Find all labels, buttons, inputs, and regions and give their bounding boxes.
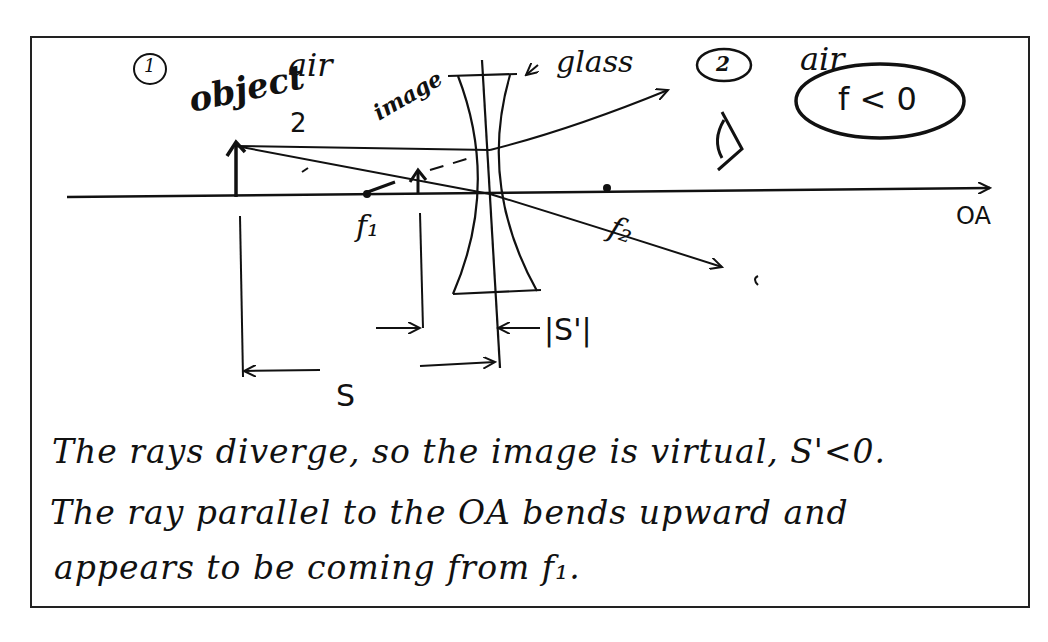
region-1-medium-label: air bbox=[288, 46, 333, 84]
object-arrow bbox=[227, 142, 245, 197]
region-1-number: 1 bbox=[144, 55, 155, 76]
region-2-number: 2 bbox=[716, 52, 730, 76]
focal-point-1-label: f₁ bbox=[356, 208, 379, 243]
note-line-3: appears to be coming from f₁. bbox=[54, 548, 581, 587]
ray-tick-mark bbox=[302, 168, 308, 172]
glass-label: glass bbox=[556, 44, 633, 79]
note-line-1: The rays diverge, so the image is virtua… bbox=[52, 432, 886, 471]
parallel-ray bbox=[236, 90, 668, 193]
ray-tick-mark bbox=[755, 276, 758, 285]
object-distance-label: S bbox=[336, 378, 355, 413]
ray-number-label: 2 bbox=[290, 108, 307, 138]
central-ray bbox=[236, 146, 722, 267]
image-distance-label: |S'| bbox=[544, 312, 592, 347]
note-line-2: The ray parallel to the OA bends upward … bbox=[50, 493, 849, 532]
focal-point-2-dot bbox=[603, 184, 611, 192]
focal-condition-label: f < 0 bbox=[838, 80, 917, 118]
concave-lens bbox=[448, 60, 541, 368]
eye-icon bbox=[717, 112, 742, 170]
optical-axis-label: OA bbox=[956, 202, 991, 230]
glass-pointer-arrow bbox=[526, 65, 538, 75]
region-2-medium-label: air bbox=[800, 40, 845, 78]
optical-axis bbox=[67, 188, 990, 197]
